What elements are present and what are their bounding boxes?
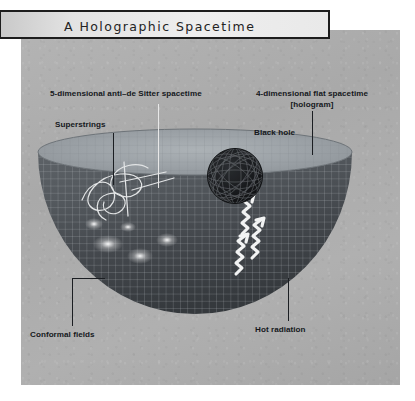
label-superstrings: Superstrings bbox=[55, 120, 106, 131]
title-plate: A Holographic Spacetime bbox=[0, 10, 330, 39]
black-hole-graphic bbox=[206, 147, 264, 205]
leader-line-conformal-fields-vertical bbox=[72, 278, 73, 326]
label-ads: 5-dimensional anti–de Sitter spacetime bbox=[50, 89, 202, 100]
leader-line-ads bbox=[158, 104, 159, 188]
leader-line-hot-radiation bbox=[288, 278, 289, 321]
label-conformal-fields: Conformal fields bbox=[30, 330, 95, 341]
leader-line-superstrings bbox=[113, 133, 114, 185]
label-black-hole: Black hole bbox=[254, 128, 295, 139]
leader-line-conformal-fields-horizontal bbox=[72, 278, 105, 279]
black-hole-sphere bbox=[206, 147, 264, 205]
anti-de-sitter-bowl bbox=[36, 128, 354, 324]
label-hologram-line1: 4-dimensional flat spacetime bbox=[247, 89, 377, 100]
label-hologram-line2: [hologram] bbox=[247, 100, 377, 111]
page-title: A Holographic Spacetime bbox=[64, 19, 255, 34]
bowl-graphic bbox=[36, 128, 354, 324]
leader-line-black-hole bbox=[312, 131, 313, 155]
label-hot-radiation: Hot radiation bbox=[255, 325, 306, 336]
holographic-spacetime-figure: A Holographic Spacetime bbox=[0, 0, 415, 401]
